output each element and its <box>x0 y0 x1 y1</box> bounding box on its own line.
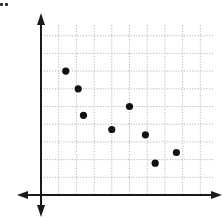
x-axis-left-arrow-icon <box>17 191 28 199</box>
data-point <box>75 85 82 92</box>
data-point <box>80 112 87 119</box>
data-point <box>108 126 115 133</box>
scatter-plot <box>0 0 223 218</box>
y-axis-down-arrow-icon <box>37 205 45 217</box>
data-point <box>62 68 69 75</box>
data-points <box>62 68 180 167</box>
data-point <box>152 160 159 167</box>
y-axis-up-arrow-icon <box>37 13 45 25</box>
data-point <box>142 131 149 138</box>
axes <box>17 13 222 217</box>
data-point <box>126 103 133 110</box>
data-point <box>173 149 180 156</box>
x-axis-right-arrow-icon <box>211 191 222 199</box>
grid-lines <box>41 25 214 195</box>
